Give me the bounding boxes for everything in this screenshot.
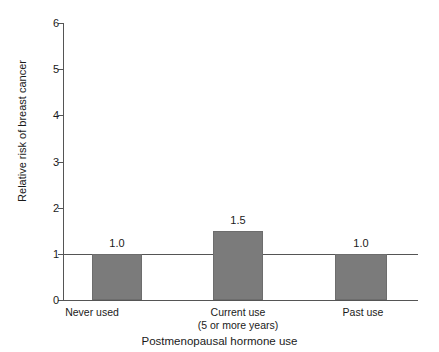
x-category-label-current-use-line2: (5 or more years) [173,319,303,332]
x-category-label-current-use-line1: Current use [211,306,266,318]
bar-never-used[interactable] [92,254,142,300]
y-tick-label-5: 5 [53,61,59,77]
bar-value-current-use: 1.5 [208,213,268,227]
bar-value-never-used: 1.0 [87,236,147,250]
bar-current-use[interactable] [213,231,263,300]
y-tick-label-1: 1 [53,246,59,262]
bar-chart-figure: Relative risk of breast cancer 6 5 4 3 2… [0,0,439,352]
x-category-label-never-used-line1: Never used [65,306,119,318]
bar-value-past-use: 1.0 [331,236,391,250]
y-tick-label-4: 4 [53,107,59,123]
x-category-label-past-use-line1: Past use [343,306,384,318]
y-tick-label-3: 3 [53,154,59,170]
x-category-label-current-use: Current use (5 or more years) [173,306,303,332]
y-tick-label-2: 2 [53,200,59,216]
x-category-label-never-used: Never used [27,306,157,319]
y-axis-line [63,23,64,300]
y-axis-title: Relative risk of breast cancer [14,0,30,281]
x-category-label-past-use: Past use [298,306,428,319]
y-tick-label-6: 6 [53,15,59,31]
plot-area: 6 5 4 3 2 1 0 1.0 [63,23,418,300]
x-axis-title: Postmenopausal hormone use [0,333,439,349]
baseline-axis-line [63,300,418,301]
bar-past-use[interactable] [335,254,387,300]
